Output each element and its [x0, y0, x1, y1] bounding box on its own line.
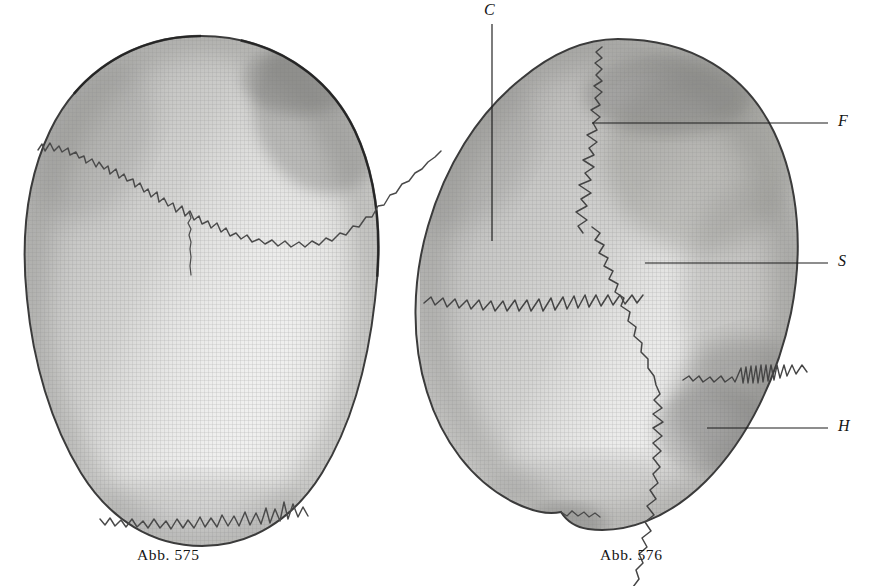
- caption-abb-576: Abb. 576: [600, 546, 663, 564]
- caption-abb-575: Abb. 575: [137, 546, 200, 564]
- label-os-occipitale: H: [838, 417, 850, 435]
- label-os-frontale-naht: F: [838, 112, 848, 130]
- anatomical-plate: [0, 0, 875, 586]
- label-sutura-sagittalis: S: [838, 252, 846, 270]
- label-sutura-coronalis: C: [484, 1, 495, 19]
